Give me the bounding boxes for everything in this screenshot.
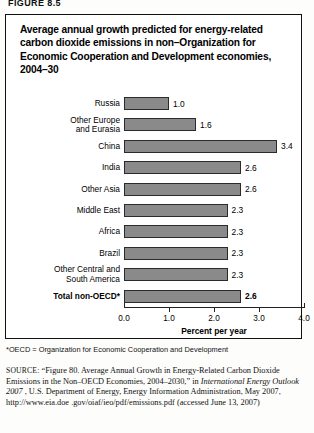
x-axis-tick-label: 4.0 xyxy=(298,314,309,323)
bar-container: 2.3 xyxy=(124,204,228,217)
chart-bar-row: Africa2.3 xyxy=(6,221,303,242)
chart-bar-row: China3.4 xyxy=(6,136,303,157)
category-label: Other Asia xyxy=(2,185,120,194)
chart-bar xyxy=(124,247,228,260)
x-axis-tick-label: 1.0 xyxy=(163,314,174,323)
source-label: SOURCE: xyxy=(6,366,39,375)
bar-container: 1.6 xyxy=(124,118,196,131)
chart-bar-row: Other Asia2.6 xyxy=(6,179,303,200)
bar-container: 2.6 xyxy=(124,290,241,303)
x-axis-tick xyxy=(214,307,215,312)
x-axis-title: Percent per year xyxy=(124,326,304,336)
bar-container: 3.4 xyxy=(124,140,277,153)
category-label: Total non-OECD* xyxy=(2,292,120,301)
chart-bar xyxy=(124,268,228,281)
chart-plot-area: Russia1.0Other Europe and Eurasia1.6Chin… xyxy=(6,93,303,325)
figure-number: FIGURE 8.5 xyxy=(8,0,61,8)
bar-value-label: 2.3 xyxy=(228,227,244,237)
category-label: Brazil xyxy=(2,249,120,258)
category-label: Middle East xyxy=(2,206,120,215)
x-axis-tick-label: 3.0 xyxy=(253,314,264,323)
figure-page: FIGURE 8.5 Average annual growth predict… xyxy=(0,0,314,433)
chart-bar-row: Russia1.0 xyxy=(6,93,303,114)
x-axis-tick xyxy=(169,307,170,312)
figure-title: Average annual growth predicted for ener… xyxy=(20,23,292,77)
category-label: India xyxy=(2,163,120,172)
x-axis-tick-label: 0.0 xyxy=(118,314,129,323)
bar-value-label: 1.6 xyxy=(196,120,212,130)
chart-bar xyxy=(124,225,228,238)
figure-box: Average annual growth predicted for ener… xyxy=(5,14,302,339)
chart-bar-row: Brazil2.3 xyxy=(6,243,303,264)
bar-value-label: 1.0 xyxy=(169,99,185,109)
chart-bar-row: Total non-OECD*2.6 xyxy=(6,286,303,307)
bar-value-label: 3.4 xyxy=(277,141,293,151)
category-label: Other Europe and Eurasia xyxy=(2,116,120,135)
source-text-part2: , U.S. Department of Energy, Energy Info… xyxy=(6,387,281,407)
bar-container: 1.0 xyxy=(124,97,169,110)
chart-bar-row: Other Europe and Eurasia1.6 xyxy=(6,114,303,135)
category-label: Russia xyxy=(2,99,120,108)
bar-container: 2.6 xyxy=(124,183,241,196)
source-citation: SOURCE: “Figure 80. Average Annual Growt… xyxy=(6,366,308,408)
category-label: Africa xyxy=(2,227,120,236)
bar-container: 2.3 xyxy=(124,247,228,260)
x-axis-tick xyxy=(124,303,125,308)
bar-container: 2.3 xyxy=(124,225,228,238)
chart-bar xyxy=(124,97,169,110)
category-label: Other Central and South America xyxy=(2,265,120,284)
chart-bar-row: Middle East2.3 xyxy=(6,200,303,221)
chart-bar xyxy=(124,204,228,217)
chart-bar xyxy=(124,290,241,303)
bar-value-label: 2.3 xyxy=(228,205,244,215)
bar-rows: Russia1.0Other Europe and Eurasia1.6Chin… xyxy=(6,93,303,307)
bar-value-label: 2.6 xyxy=(241,163,257,173)
chart-bar xyxy=(124,118,196,131)
chart-bar xyxy=(124,140,277,153)
x-axis-tick-label: 2.0 xyxy=(208,314,219,323)
chart-bar xyxy=(124,183,241,196)
bar-container: 2.3 xyxy=(124,268,228,281)
figure-footnote: *OECD = Organization for Economic Cooper… xyxy=(6,345,306,354)
x-axis-tick xyxy=(304,303,305,308)
chart-bar-row: India2.6 xyxy=(6,157,303,178)
bar-value-label: 2.6 xyxy=(241,291,257,301)
category-label: China xyxy=(2,142,120,151)
bar-container: 2.6 xyxy=(124,161,241,174)
chart-bar-row: Other Central and South America2.3 xyxy=(6,264,303,285)
bar-value-label: 2.6 xyxy=(241,184,257,194)
bar-value-label: 2.3 xyxy=(228,270,244,280)
x-axis-tick xyxy=(259,307,260,312)
chart-bar xyxy=(124,161,241,174)
bar-value-label: 2.3 xyxy=(228,248,244,258)
